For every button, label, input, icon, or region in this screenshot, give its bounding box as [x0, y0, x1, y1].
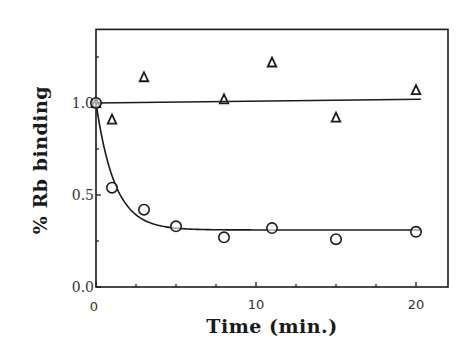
chart: 01020 0.00.51.0 Time (min.) % Rb binding	[0, 0, 473, 356]
circle-marker	[107, 182, 117, 192]
x-tick-label: 20	[408, 297, 425, 312]
x-tick-label: 0	[90, 299, 98, 314]
plot-border	[96, 29, 448, 287]
triangle-marker	[332, 113, 341, 122]
y-tick-label: 0.5	[72, 187, 94, 203]
circle-marker	[171, 221, 181, 231]
circle-marker	[219, 232, 229, 242]
circle-marker	[411, 227, 421, 237]
triangle-marker	[108, 115, 117, 124]
circle-marker	[91, 98, 101, 108]
x-tick-label: 10	[248, 297, 265, 312]
circle-marker	[139, 205, 149, 215]
circle-marker	[331, 234, 341, 244]
linear-fit-line	[96, 99, 421, 103]
triangle-marker	[140, 72, 149, 81]
y-axis-title: % Rb binding	[29, 86, 51, 234]
circle-marker	[267, 223, 277, 233]
plot-frame	[96, 29, 448, 287]
triangle-marker	[412, 85, 421, 94]
data-markers	[91, 58, 421, 245]
x-axis-title: Time (min.)	[206, 315, 337, 337]
y-tick-label: 0.0	[72, 279, 94, 295]
triangle-marker	[268, 58, 277, 67]
